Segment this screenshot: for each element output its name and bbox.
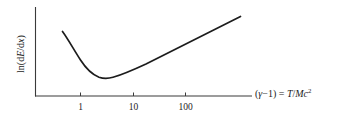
tick-label-100: 100 — [178, 102, 193, 112]
y-axis-label-x: x — [15, 38, 26, 42]
x-axis-tick-labels: 1 10 100 — [78, 102, 193, 112]
y-axis-label-d2: d — [15, 43, 26, 48]
y-axis-label-close: ) — [15, 35, 26, 38]
y-axis-label-ln: ln( — [15, 62, 26, 73]
plot-canvas: 1 10 100 — [0, 0, 340, 122]
x-axis-label-equals: = — [276, 88, 287, 99]
x-axis-label: (γ−1) = T/Mc2 — [255, 88, 311, 100]
y-axis-label-e: E — [15, 51, 26, 57]
figure-container: 1 10 100 ln(dE/dx) (γ−1) = T/Mc2 — [0, 0, 340, 122]
tick-label-1: 1 — [78, 102, 83, 112]
y-axis-label: ln(dE/dx) — [14, 9, 28, 99]
data-curve-energy-loss — [63, 17, 241, 79]
tick-label-10: 10 — [129, 102, 139, 112]
y-axis-label-slash: / — [15, 48, 26, 51]
x-axis-label-exponent: 2 — [308, 87, 311, 94]
x-axis-label-minus-one: −1 — [262, 88, 273, 99]
x-axis-label-mc: Mc — [295, 88, 308, 99]
y-axis-label-d1: d — [15, 57, 26, 62]
